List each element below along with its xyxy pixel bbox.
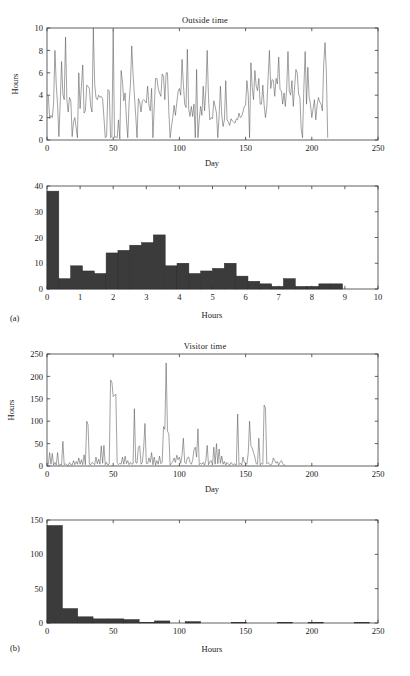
histogram-bar bbox=[142, 243, 154, 289]
x-tick-label: 50 bbox=[109, 469, 118, 479]
x-tick-label: 0 bbox=[45, 469, 49, 479]
y-tick-label: 40 bbox=[35, 181, 44, 191]
y-tick-label: 100 bbox=[30, 549, 43, 559]
x-tick-label: 0 bbox=[45, 626, 49, 636]
panel-visitor-time-histogram: 050100150 050100150200250 Hours (b) bbox=[0, 510, 410, 676]
y-tick-label: 4 bbox=[39, 90, 44, 100]
x-tick-label: 250 bbox=[372, 626, 385, 636]
histogram-bar bbox=[260, 284, 272, 289]
y-tick-label: 150 bbox=[30, 515, 43, 525]
histogram-bar bbox=[118, 250, 130, 289]
panel-outside-time-histogram: 010203040 012345678910 Hours (a) bbox=[0, 175, 410, 335]
y-tick-label: 0 bbox=[39, 135, 43, 145]
x-tick-label: 250 bbox=[372, 143, 385, 153]
xlabel-visitor-histogram: Hours bbox=[202, 644, 223, 654]
x-tick-label: 0 bbox=[45, 292, 49, 302]
y-tick-label: 150 bbox=[30, 394, 43, 404]
x-tick-label: 6 bbox=[243, 292, 247, 302]
x-tick-label: 200 bbox=[305, 469, 318, 479]
histogram-bar bbox=[130, 245, 142, 289]
x-tick-label: 100 bbox=[173, 469, 186, 479]
axes-outside-time-series: 0246810 050100150200250 Hours Day bbox=[0, 0, 410, 175]
histogram-bar bbox=[47, 191, 59, 289]
x-tick-label: 8 bbox=[310, 292, 314, 302]
y-tick-label: 10 bbox=[35, 23, 44, 33]
axes-outside-time-histogram: 010203040 012345678910 Hours bbox=[0, 175, 410, 335]
y-tick-label: 0 bbox=[39, 618, 43, 628]
histogram-bar bbox=[283, 279, 295, 289]
y-tick-label: 50 bbox=[35, 439, 44, 449]
y-tick-label: 50 bbox=[35, 584, 44, 594]
histogram-bar bbox=[185, 622, 200, 623]
x-tick-label: 150 bbox=[239, 469, 252, 479]
histogram-bar bbox=[108, 619, 123, 623]
xlabel-outside-time: Day bbox=[205, 158, 220, 168]
panel-outside-time-series: Outside time 0246810 050100150200250 Hou… bbox=[0, 0, 410, 175]
histogram-bar bbox=[139, 622, 154, 623]
x-tick-label: 100 bbox=[173, 626, 186, 636]
x-tick-label: 4 bbox=[177, 292, 182, 302]
bars-outside-time bbox=[47, 191, 343, 289]
xlabel-outside-histogram: Hours bbox=[202, 310, 223, 320]
subfigure-label-a: (a) bbox=[10, 313, 19, 323]
histogram-bar bbox=[201, 271, 213, 289]
y-tick-label: 10 bbox=[35, 258, 44, 268]
panel-visitor-time-series: Visitor time 050100150200250 05010015020… bbox=[0, 335, 410, 510]
x-tick-label: 9 bbox=[343, 292, 347, 302]
histogram-bar bbox=[331, 284, 343, 289]
y-tick-label: 200 bbox=[30, 372, 43, 382]
histogram-bar bbox=[155, 621, 170, 623]
histogram-bar bbox=[71, 266, 83, 289]
histogram-bar bbox=[231, 622, 246, 623]
histogram-bar bbox=[106, 253, 118, 289]
x-tick-label: 3 bbox=[144, 292, 148, 302]
y-tick-label: 2 bbox=[39, 113, 43, 123]
histogram-bar bbox=[59, 279, 71, 289]
histogram-bar bbox=[165, 266, 177, 289]
bars-visitor-time bbox=[47, 525, 370, 623]
x-tick-label: 150 bbox=[239, 626, 252, 636]
histogram-bar bbox=[319, 284, 331, 289]
histogram-bar bbox=[124, 620, 139, 623]
figure-root: Outside time 0246810 050100150200250 Hou… bbox=[0, 0, 410, 676]
histogram-bar bbox=[213, 268, 225, 289]
subfigure-label-b: (b) bbox=[10, 643, 20, 653]
histogram-bar bbox=[224, 263, 236, 289]
y-tick-label: 250 bbox=[30, 349, 43, 359]
x-tick-label: 200 bbox=[305, 143, 318, 153]
y-tick-label: 6 bbox=[39, 68, 43, 78]
histogram-bar bbox=[277, 622, 292, 623]
histogram-bar bbox=[308, 622, 323, 623]
histogram-bar bbox=[47, 525, 62, 623]
histogram-bar bbox=[82, 271, 94, 289]
y-tick-label: 100 bbox=[30, 416, 43, 426]
x-tick-label: 5 bbox=[210, 292, 214, 302]
x-tick-label: 100 bbox=[173, 143, 186, 153]
histogram-bar bbox=[78, 617, 93, 623]
x-tick-label: 150 bbox=[239, 143, 252, 153]
x-tick-label: 2 bbox=[111, 292, 115, 302]
ticks-y-3: 050100150200250 bbox=[30, 349, 378, 471]
y-tick-label: 20 bbox=[35, 233, 44, 243]
ticks-x-4: 050100150200250 bbox=[45, 520, 385, 636]
histogram-bar bbox=[307, 286, 319, 289]
ylabel-outside-time: Hours bbox=[10, 74, 20, 95]
y-tick-label: 0 bbox=[39, 461, 43, 471]
histogram-bar bbox=[94, 274, 106, 289]
x-tick-label: 50 bbox=[109, 143, 118, 153]
histogram-bar bbox=[236, 276, 248, 289]
ticks-y-4: 050100150 bbox=[30, 515, 378, 628]
x-tick-label: 7 bbox=[277, 292, 281, 302]
y-tick-label: 8 bbox=[39, 46, 43, 56]
histogram-bar bbox=[62, 609, 77, 623]
histogram-bar bbox=[272, 286, 284, 289]
series-line-outside-time bbox=[48, 28, 327, 139]
x-tick-label: 50 bbox=[109, 626, 118, 636]
ylabel-visitor-time: Hours bbox=[6, 400, 16, 421]
plot-frame-1 bbox=[47, 28, 378, 140]
histogram-bar bbox=[248, 281, 260, 289]
x-tick-label: 10 bbox=[374, 292, 383, 302]
x-tick-label: 1 bbox=[78, 292, 82, 302]
histogram-bar bbox=[295, 286, 307, 289]
axes-visitor-time-series: 050100150200250 050100150200250 Hours Da… bbox=[0, 335, 410, 510]
